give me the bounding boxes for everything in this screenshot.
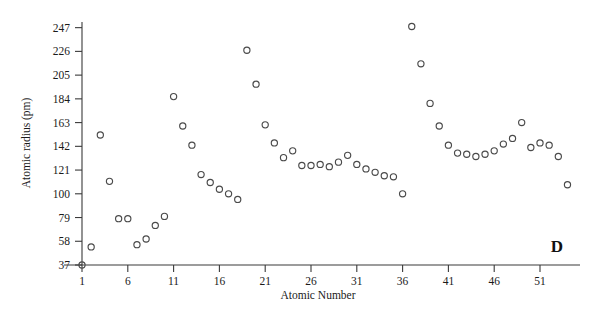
x-tick-label: 11 — [168, 275, 179, 287]
x-tick-label: 41 — [443, 275, 455, 287]
x-tick-label: 16 — [214, 275, 226, 287]
x-tick-label: 31 — [351, 275, 363, 287]
y-tick-label: 142 — [53, 140, 71, 152]
y-tick-label: 121 — [53, 164, 71, 176]
scatter-chart: 375879100121142163184205226247 Atomic ra… — [0, 0, 600, 320]
x-tick-label: 36 — [397, 275, 409, 287]
x-tick-label: 51 — [534, 275, 546, 287]
x-tick-label: 46 — [488, 275, 500, 287]
y-tick-label: 79 — [59, 212, 71, 224]
y-tick-label: 184 — [53, 93, 71, 105]
y-tick-label: 205 — [53, 69, 71, 81]
y-tick-label: 58 — [59, 235, 71, 247]
x-axis-title: Atomic Number — [280, 289, 355, 301]
y-tick-label: 163 — [53, 117, 71, 129]
x-tick-label: 1 — [79, 275, 85, 287]
x-tick-label: 21 — [259, 275, 271, 287]
panel-letter-label: D — [551, 237, 563, 256]
x-tick-label: 6 — [125, 275, 131, 287]
y-tick-label: 247 — [53, 22, 71, 34]
y-tick-label: 226 — [53, 45, 71, 57]
y-tick-label: 100 — [53, 188, 71, 200]
chart-background — [0, 0, 600, 320]
y-axis-title: Atomic radius (pm) — [20, 97, 33, 188]
x-tick-label: 26 — [305, 275, 317, 287]
